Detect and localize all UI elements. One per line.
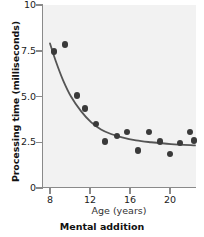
data-point xyxy=(157,138,164,145)
y-tick-mark xyxy=(36,50,43,52)
x-tick-label: 20 xyxy=(158,194,182,205)
data-point xyxy=(74,92,81,99)
y-tick-mark xyxy=(36,187,43,189)
y-tick-label: 0 xyxy=(2,182,36,193)
x-tick-label: 16 xyxy=(118,194,142,205)
plot-area xyxy=(42,5,196,188)
y-tick-label: 7.5 xyxy=(2,45,36,56)
data-point xyxy=(102,138,109,145)
x-tick-label: 12 xyxy=(78,194,102,205)
data-point xyxy=(135,147,142,154)
chart-figure: Processing time (milliseconds) 02.55.07.… xyxy=(0,0,204,237)
y-tick-label: 2.5 xyxy=(2,136,36,147)
y-tick-mark xyxy=(36,142,43,144)
x-axis-label: Age (years) xyxy=(42,205,196,216)
data-point xyxy=(191,137,198,144)
y-tick-mark xyxy=(36,4,43,6)
fit-curve xyxy=(43,5,197,188)
y-axis-label: Processing time (milliseconds) xyxy=(10,17,21,187)
y-tick-mark xyxy=(36,96,43,98)
y-tick-label: 10 xyxy=(2,0,36,10)
chart-title: Mental addition xyxy=(0,221,204,232)
y-tick-label: 5.0 xyxy=(2,91,36,102)
data-point xyxy=(82,105,89,112)
x-tick-label: 8 xyxy=(38,194,62,205)
data-point xyxy=(62,41,69,48)
